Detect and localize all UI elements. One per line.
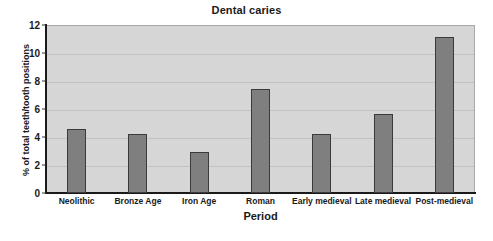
bar-iron-age bbox=[190, 152, 209, 193]
x-tick-label: Post-medieval bbox=[414, 196, 475, 206]
x-tick-label: Iron Age bbox=[169, 196, 230, 206]
x-tick-label: Bronze Age bbox=[107, 196, 168, 206]
bar-slot bbox=[230, 25, 291, 193]
bar-slot bbox=[46, 25, 107, 193]
y-tick-mark bbox=[42, 25, 46, 26]
bar-slot bbox=[352, 25, 413, 193]
bar-neolithic bbox=[67, 129, 86, 193]
y-tick-mark bbox=[42, 137, 46, 138]
bar-slot bbox=[291, 25, 352, 193]
y-tick-label: 12 bbox=[18, 20, 40, 31]
x-tick-label: Roman bbox=[230, 196, 291, 206]
bar-bronze-age bbox=[128, 134, 147, 193]
x-axis-tick-labels: NeolithicBronze AgeIron AgeRomanEarly me… bbox=[46, 196, 475, 206]
y-tick-mark bbox=[42, 109, 46, 110]
x-tick-label: Late medieval bbox=[352, 196, 413, 206]
dental-caries-bar-chart: Dental caries % of total teeth/tooth pos… bbox=[0, 0, 493, 241]
bar-late-medieval bbox=[374, 114, 393, 193]
y-tick-mark bbox=[42, 53, 46, 54]
y-tick-label: 10 bbox=[18, 48, 40, 59]
y-tick-mark bbox=[42, 81, 46, 82]
bar-slot bbox=[107, 25, 168, 193]
y-tick-label: 4 bbox=[18, 132, 40, 143]
bar-roman bbox=[251, 89, 270, 193]
bar-post-medieval bbox=[435, 37, 454, 193]
bar-slot bbox=[414, 25, 475, 193]
x-axis-title: Period bbox=[46, 210, 475, 222]
y-tick-label: 8 bbox=[18, 76, 40, 87]
bar-slot bbox=[169, 25, 230, 193]
y-tick-mark bbox=[42, 193, 46, 194]
y-tick-label: 0 bbox=[18, 188, 40, 199]
y-axis-tick-labels: 024681012 bbox=[18, 25, 40, 193]
y-tick-label: 2 bbox=[18, 160, 40, 171]
y-tick-mark bbox=[42, 165, 46, 166]
bars-layer bbox=[46, 25, 475, 193]
chart-title: Dental caries bbox=[0, 4, 493, 16]
x-tick-label: Early medieval bbox=[291, 196, 352, 206]
y-tick-label: 6 bbox=[18, 104, 40, 115]
x-tick-label: Neolithic bbox=[46, 196, 107, 206]
bar-early-medieval bbox=[312, 134, 331, 194]
